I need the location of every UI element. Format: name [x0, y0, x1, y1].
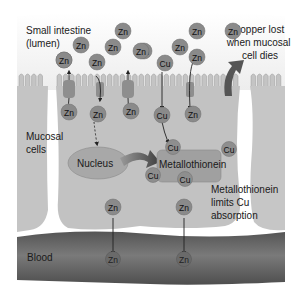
blood-vessel — [17, 232, 285, 285]
zinc-ion: Zn — [225, 23, 241, 39]
ion-label: Zn — [108, 43, 118, 53]
zinc-ion: Zn — [115, 23, 131, 39]
ion-label: Zn — [92, 58, 102, 68]
zinc-ion: Zn — [89, 54, 105, 70]
mucosal-cell-right — [250, 86, 285, 230]
copper-ion: Cu — [178, 172, 193, 187]
nucleus-label: Nucleus — [77, 158, 113, 169]
microvillus — [25, 74, 30, 86]
ion-label: Zn — [59, 56, 69, 66]
ion-label: Zn — [108, 203, 118, 213]
microvillus — [215, 74, 220, 86]
zinc-ion: Zn — [177, 252, 192, 267]
transporter — [63, 80, 75, 98]
ion-label: Zn — [179, 203, 189, 213]
microvillus — [82, 74, 87, 86]
ion-label: Zn — [188, 110, 198, 120]
ion-label: Zn — [192, 27, 202, 37]
ion-label: Zn — [64, 108, 74, 118]
zinc-ion: Zn — [105, 39, 121, 55]
ion-label: Cu — [160, 59, 171, 69]
microvillus — [164, 74, 169, 86]
microvillus — [257, 74, 262, 86]
copper-ion: Cu — [222, 142, 237, 157]
microvillus — [196, 74, 201, 86]
zinc-ion: Zn — [106, 252, 121, 267]
ion-label: Zn — [76, 41, 86, 51]
blood-label: Blood — [27, 252, 53, 263]
microvillus — [170, 74, 175, 86]
ion-label: Cu — [168, 143, 179, 153]
zinc-copper-absorption-diagram: Nucleus Metallothionein Small intestine … — [0, 0, 302, 296]
ion-label: Zn — [126, 107, 136, 117]
zinc-ion: Zn — [90, 106, 106, 122]
microvillus — [32, 74, 37, 86]
microvillus — [145, 74, 150, 86]
ion-label: Cu — [224, 145, 235, 155]
zinc-ion: Zn — [189, 49, 205, 65]
zinc-ion: Zn — [73, 37, 89, 53]
microvillus — [19, 74, 24, 86]
zinc-ion: Zn — [61, 104, 77, 120]
zinc-ion: Zn — [185, 106, 201, 122]
ion-label: Zn — [108, 255, 118, 265]
ion-label: Zn — [118, 27, 128, 37]
microvillus — [152, 74, 157, 86]
zinc-ion: Zn — [189, 23, 205, 39]
zinc-ion: Zn — [105, 199, 121, 215]
ion-label: Zn — [228, 27, 238, 37]
ion-label: Zn — [192, 53, 202, 63]
microvillus — [264, 74, 269, 86]
zinc-ion: Zn — [176, 199, 192, 215]
ion-label: Zn — [179, 255, 189, 265]
ion-label: Zn — [93, 110, 103, 120]
microvillus — [38, 74, 43, 86]
ion-label: Zn — [175, 43, 185, 53]
microvillus — [202, 74, 207, 86]
microvillus — [276, 74, 281, 86]
microvillus — [208, 74, 213, 86]
microvillus — [89, 74, 94, 86]
zinc-ion: Zn — [56, 52, 72, 68]
microvillus — [114, 74, 119, 86]
copper-ion: Cu — [146, 168, 161, 183]
transporter — [122, 80, 134, 98]
microvillus — [107, 74, 112, 86]
microvillus — [233, 74, 238, 86]
microvillus — [177, 74, 182, 86]
metallothionein-label: Metallothionein — [159, 159, 226, 170]
ion-label: Cu — [157, 111, 168, 121]
copper-ion: Cu — [166, 140, 181, 155]
zinc-ion: Zn — [133, 43, 149, 59]
microvillus — [251, 74, 256, 86]
copper-ion: Cu — [157, 55, 173, 71]
microvillus — [76, 74, 81, 86]
ion-label: Cu — [148, 171, 159, 181]
ion-label: Cu — [180, 175, 191, 185]
mucosal-cell-left — [17, 86, 48, 232]
microvillus — [57, 74, 62, 86]
copper-ion: Cu — [154, 107, 170, 123]
microvillus — [139, 74, 144, 86]
microvillus — [270, 74, 275, 86]
zinc-ion: Zn — [123, 103, 139, 119]
zinc-ion: Zn — [172, 39, 188, 55]
ion-label: Zn — [136, 47, 146, 57]
